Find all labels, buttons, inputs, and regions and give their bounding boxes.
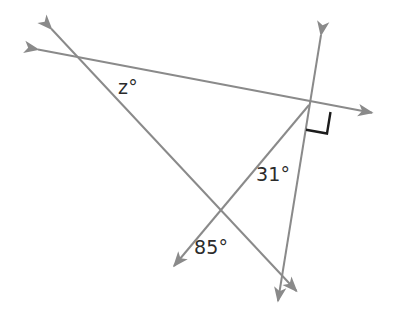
right-angle-mark [306, 112, 331, 134]
line-near-horizontal-transversal [38, 50, 372, 113]
angle-label-85: 85° [194, 236, 228, 258]
line-long-diagonal-ray [52, 29, 297, 291]
diagram-canvas [0, 0, 401, 333]
geometry-diagram: z° 31° 85° [0, 0, 401, 333]
angle-label-z: z° [118, 76, 138, 98]
diagram-lines [38, 29, 372, 301]
angle-label-31: 31° [256, 163, 290, 185]
